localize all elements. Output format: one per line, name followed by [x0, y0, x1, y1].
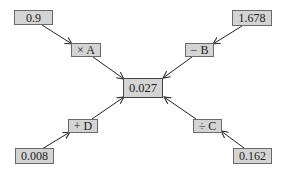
- arrow-br-inner: [164, 97, 196, 119]
- arrow-tl-inner: [93, 57, 124, 79]
- input-value-box-bl: 0.008: [15, 148, 54, 164]
- operator-box-add-d: + D: [68, 119, 98, 133]
- operation-diagram: 0.027 0.9 × A 1.678 − B ÷ C 0.162 + D 0.…: [0, 0, 284, 175]
- input-value-box-tr: 1.678: [232, 10, 272, 26]
- result-box: 0.027: [123, 78, 163, 98]
- operator-box-divide-c: ÷ C: [193, 119, 222, 133]
- arrow-tr-inner: [163, 57, 192, 78]
- arrow-br-outer: [221, 131, 244, 148]
- input-value-box-tl: 0.9: [14, 10, 53, 25]
- operator-box-multiply-a: × A: [71, 43, 101, 57]
- input-value-box-br: 0.162: [233, 148, 272, 164]
- arrow-tl-outer: [42, 25, 72, 44]
- arrow-bl-inner: [92, 97, 124, 119]
- arrow-tr-outer: [213, 26, 242, 44]
- operator-box-subtract-b: − B: [185, 43, 214, 57]
- arrow-bl-outer: [42, 132, 70, 149]
